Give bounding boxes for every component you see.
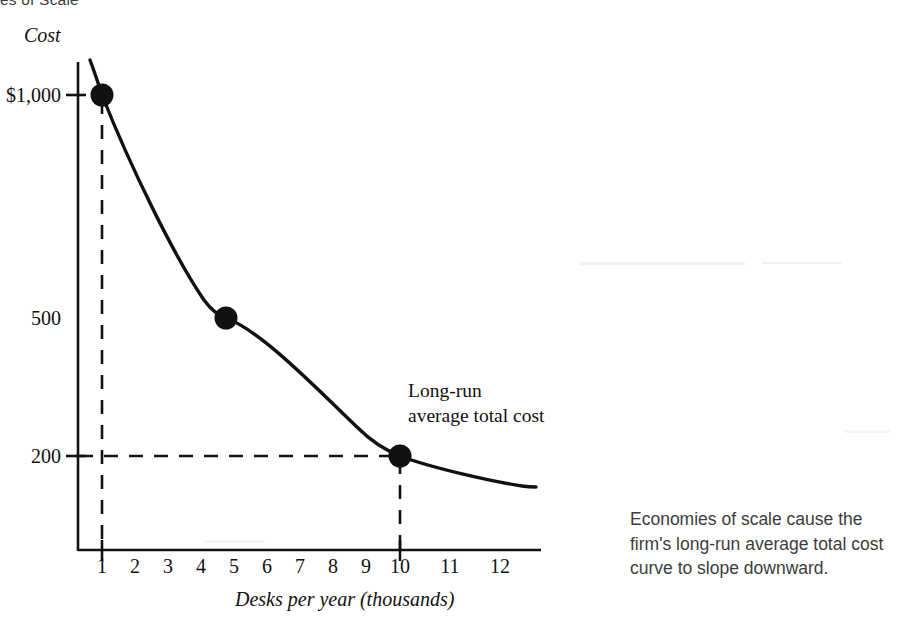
data-point-1000 <box>91 84 114 107</box>
y-tick-label-500: 500 <box>0 307 61 330</box>
curve-annotation-line2: average total cost <box>408 403 544 428</box>
x-tick-label-2: 2 <box>120 555 150 578</box>
x-tick-label-1: 1 <box>87 555 117 578</box>
x-tick-label-8: 8 <box>318 555 348 578</box>
data-point-500 <box>215 307 238 330</box>
x-tick-label-4: 4 <box>186 555 216 578</box>
side-caption: Economies of scale cause the firm's long… <box>630 507 905 581</box>
y-tick-label-200: 200 <box>0 445 61 468</box>
y-tick-label-1000: $1,000 <box>0 84 61 107</box>
x-tick-label-10: 10 <box>385 555 415 578</box>
x-tick-label-11: 11 <box>435 555 465 578</box>
x-tick-label-3: 3 <box>153 555 183 578</box>
x-tick-label-6: 6 <box>252 555 282 578</box>
x-tick-label-12: 12 <box>485 555 515 578</box>
curve-annotation-line1: Long-run <box>408 378 544 403</box>
x-tick-label-9: 9 <box>351 555 381 578</box>
figure-root: es of Scale Cost Desks per year ( <box>0 0 913 629</box>
data-point-200 <box>389 445 412 468</box>
x-tick-label-5: 5 <box>219 555 249 578</box>
x-axis-title: Desks per year (thousands) <box>235 588 454 611</box>
curve-annotation: Long-run average total cost <box>408 378 544 428</box>
y-axis-title: Cost <box>24 24 61 47</box>
x-tick-label-7: 7 <box>285 555 315 578</box>
